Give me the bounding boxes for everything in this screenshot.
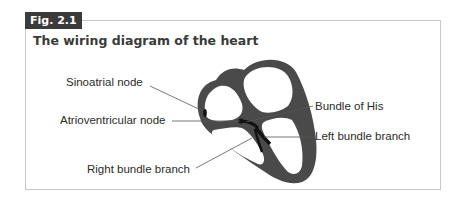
leader-sinoatrial: [150, 86, 203, 111]
label-atrioventricular-node: Atrioventricular node: [60, 114, 165, 126]
label-left-bundle-branch: Left bundle branch: [315, 130, 410, 142]
label-right-bundle-branch: Right bundle branch: [87, 163, 190, 175]
sinoatrial-node-shape: [203, 109, 207, 117]
label-bundle-of-his: Bundle of His: [315, 100, 383, 112]
heart-diagram: [0, 0, 459, 211]
label-sinoatrial-node: Sinoatrial node: [66, 76, 143, 88]
